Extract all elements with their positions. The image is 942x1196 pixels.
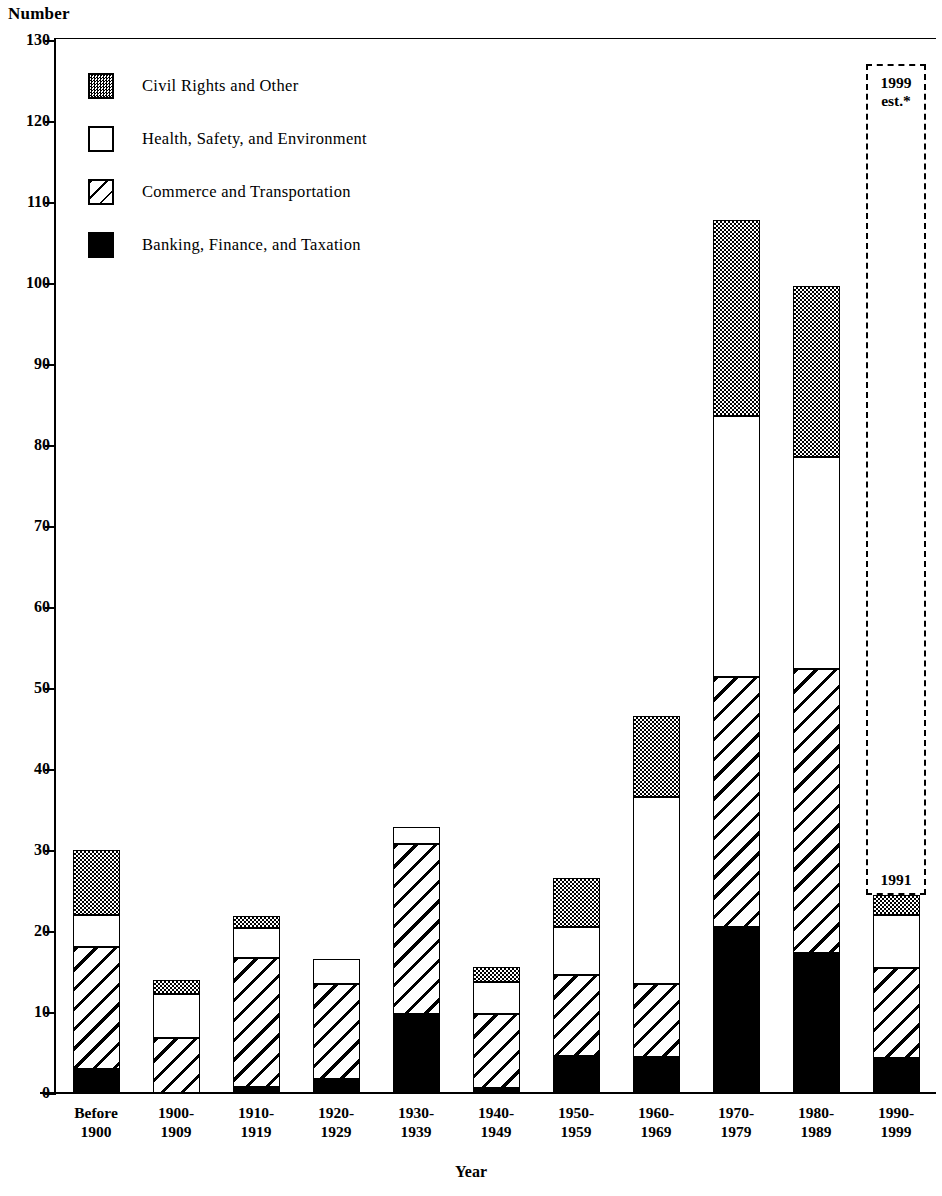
legend-swatch-health-icon (88, 126, 114, 152)
bar-segment-civil (473, 967, 520, 982)
bar-segment-banking (393, 1014, 440, 1093)
bar-segment-health (633, 797, 680, 985)
bar-segment-commerce (313, 984, 360, 1080)
bar-segment-health (713, 416, 760, 678)
bar-stack (873, 895, 920, 1093)
x-tick-label: 1960- 1969 (611, 1104, 701, 1141)
bar-segment-banking (553, 1056, 600, 1093)
bar-segment-health (313, 959, 360, 984)
bar-stack (313, 959, 360, 1093)
bar-segment-civil (73, 850, 120, 915)
legend-label: Health, Safety, and Environment (142, 129, 367, 149)
legend-label: Banking, Finance, and Taxation (142, 235, 361, 255)
bar-segment-commerce (233, 958, 280, 1088)
bar-stack (73, 850, 120, 1093)
x-tick-label: 1940- 1949 (451, 1104, 541, 1141)
y-tick-label: 130 (26, 31, 50, 49)
bar-segment-commerce (473, 1014, 520, 1088)
y-tick-label: 10 (34, 1003, 50, 1021)
bar-segment-commerce (713, 677, 760, 926)
legend-swatch-banking-icon (88, 232, 114, 258)
x-tick-label: 1900- 1909 (131, 1104, 221, 1141)
estimate-box-label: 1999 est.* (866, 74, 926, 111)
bar-segment-banking (713, 927, 760, 1093)
bar-segment-health (393, 827, 440, 844)
y-tick-label: 40 (34, 760, 50, 778)
bar-stack (233, 916, 280, 1093)
bar-stack (153, 980, 200, 1093)
bar-segment-civil (553, 878, 600, 927)
y-tick-label: 60 (34, 598, 50, 616)
bar-segment-health (73, 915, 120, 947)
bar-segment-health (233, 928, 280, 958)
bar-segment-commerce (793, 669, 840, 953)
plot-top-border (54, 38, 936, 39)
bar-segment-banking (473, 1088, 520, 1093)
bar-segment-banking (793, 953, 840, 1093)
bar-stack (553, 878, 600, 1093)
estimate-dashed-box (866, 64, 926, 895)
legend-label: Civil Rights and Other (142, 76, 298, 96)
bar-segment-health (473, 982, 520, 1014)
x-tick-label: 1910- 1919 (211, 1104, 301, 1141)
legend-item-commerce: Commerce and Transportation (88, 172, 528, 212)
x-tick-label: 1930- 1939 (371, 1104, 461, 1141)
bar-stack (793, 286, 840, 1093)
bar-stack (393, 827, 440, 1093)
y-tick-label: 80 (34, 436, 50, 454)
x-axis-caption: Year (0, 1163, 942, 1181)
bar-segment-health (553, 927, 600, 975)
y-axis-caption: Number (8, 4, 70, 24)
bar-segment-civil (233, 916, 280, 927)
bar-segment-civil (873, 895, 920, 915)
x-tick-label: 1950- 1959 (531, 1104, 621, 1141)
bar-segment-banking (873, 1058, 920, 1093)
bar-segment-commerce (393, 844, 440, 1014)
bar-segment-commerce (153, 1038, 200, 1093)
bar-segment-commerce (873, 968, 920, 1058)
y-tick-label: 100 (26, 274, 50, 292)
bar-segment-civil (633, 716, 680, 796)
bar-segment-civil (153, 980, 200, 994)
bar-segment-health (153, 994, 200, 1038)
y-tick-label: 70 (34, 517, 50, 535)
bar-stack (633, 716, 680, 1093)
y-tick-label: 20 (34, 922, 50, 940)
legend-swatch-civil-icon (88, 73, 114, 99)
bar-segment-banking (73, 1069, 120, 1093)
legend-label: Commerce and Transportation (142, 182, 351, 202)
y-tick-label: 0 (42, 1084, 50, 1102)
legend-item-health: Health, Safety, and Environment (88, 119, 528, 159)
y-tick-label: 90 (34, 355, 50, 373)
bar-stack (473, 967, 520, 1093)
bar-segment-banking (233, 1087, 280, 1093)
legend-item-civil: Civil Rights and Other (88, 66, 528, 106)
bar-segment-banking (313, 1079, 360, 1093)
x-tick-label: 1990- 1999 (851, 1104, 941, 1141)
bar-segment-commerce (553, 975, 600, 1056)
legend-swatch-commerce-icon (88, 179, 114, 205)
y-tick-label: 50 (34, 679, 50, 697)
bar-segment-health (793, 457, 840, 669)
x-tick-label: Before 1900 (51, 1104, 141, 1141)
bar-segment-commerce (633, 984, 680, 1056)
y-tick-label: 120 (26, 112, 50, 130)
bar-segment-civil (713, 220, 760, 416)
x-tick-label: 1980- 1989 (771, 1104, 861, 1141)
stacked-bar-chart: Number 0102030405060708090100110120130 1… (0, 0, 942, 1196)
y-tick-label: 110 (27, 193, 50, 211)
bar-segment-health (873, 915, 920, 968)
legend-item-banking: Banking, Finance, and Taxation (88, 225, 528, 265)
bar-segment-civil (793, 286, 840, 457)
legend: Civil Rights and OtherHealth, Safety, an… (88, 66, 528, 278)
x-tick-label: 1970- 1979 (691, 1104, 781, 1141)
bar-stack (713, 220, 760, 1093)
bar-segment-banking (633, 1057, 680, 1093)
y-tick-label: 30 (34, 841, 50, 859)
bar-segment-commerce (73, 947, 120, 1069)
x-tick-label: 1920- 1929 (291, 1104, 381, 1141)
